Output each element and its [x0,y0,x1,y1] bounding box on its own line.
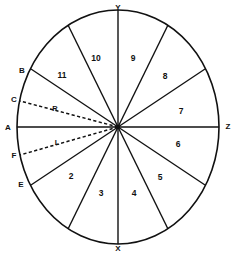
sector-label-10: 10 [91,53,101,63]
point-label-E: E [18,180,24,189]
dashed-rays [20,101,118,155]
sector-label-3: 3 [99,188,104,198]
sector-label-7: 7 [179,106,184,116]
point-label-F: F [12,151,17,160]
axis-label-bottom: X [115,244,121,253]
sector-label-8: 8 [163,71,168,81]
dashed-ray-L [20,127,118,155]
dashed-ray-label-L: L [55,138,60,147]
sector-label-11: 11 [58,70,67,80]
sector-label-2: 2 [69,171,74,181]
sector-boundary-60 [118,25,168,127]
axis-label-top: Y [115,3,121,12]
sector-boundary-30 [118,69,205,127]
axis-label-left: A [5,123,11,132]
diagram-canvas: Y X A Z B C F E R L 11 10 9 8 7 6 5 4 3 … [0,0,236,258]
axis-label-right: Z [226,122,231,131]
point-label-C: C [11,95,17,104]
point-label-B: B [19,66,25,75]
sector-boundary-150 [31,69,118,127]
dashed-ray-R [20,101,118,127]
sector-boundary-210 [31,127,118,185]
sector-label-5: 5 [158,172,163,182]
sector-label-9: 9 [131,53,136,63]
sector-boundary-240 [68,127,118,229]
sector-label-4: 4 [132,188,137,198]
sector-boundary-120 [68,25,118,127]
dashed-ray-label-R: R [52,104,58,113]
center-point [116,125,120,129]
sector-label-6: 6 [176,139,181,149]
circle-sector-diagram: Y X A Z B C F E R L 11 10 9 8 7 6 5 4 3 … [0,0,236,258]
